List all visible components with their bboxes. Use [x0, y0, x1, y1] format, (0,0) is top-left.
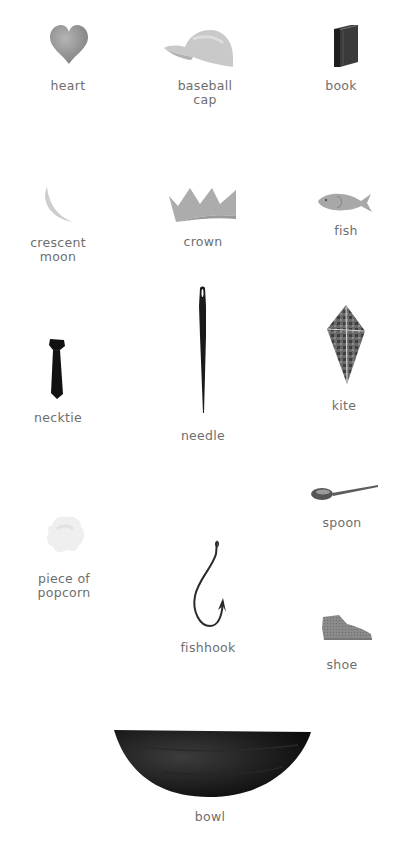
- item-label: crown: [163, 235, 243, 249]
- item-label: baseball cap: [165, 79, 245, 107]
- baseball-cap-icon: [163, 27, 235, 69]
- item-label: necktie: [18, 411, 98, 425]
- item-label: heart: [28, 79, 108, 93]
- item-label: bowl: [170, 810, 250, 824]
- necktie-icon: [48, 338, 66, 400]
- crescent-moon-icon: [43, 186, 75, 224]
- book-icon: [329, 24, 359, 68]
- heart-icon: [48, 24, 90, 66]
- fish-icon: [317, 191, 373, 215]
- popcorn-icon: [43, 515, 87, 555]
- item-label: spoon: [302, 516, 382, 530]
- item-label: crescent moon: [18, 236, 98, 264]
- kite-icon: [325, 304, 367, 386]
- shoe-icon: [321, 614, 373, 642]
- spoon-icon: [310, 484, 380, 504]
- item-label: needle: [163, 429, 243, 443]
- needle-icon: [196, 286, 210, 414]
- item-label: piece of popcorn: [24, 572, 104, 600]
- item-label: shoe: [302, 658, 382, 672]
- item-label: fishhook: [168, 641, 248, 655]
- crown-icon: [168, 186, 238, 222]
- item-label: kite: [304, 399, 384, 413]
- item-label: book: [301, 79, 381, 93]
- fishhook-icon: [190, 540, 230, 630]
- bowl-icon: [113, 727, 313, 799]
- item-label: fish: [306, 224, 386, 238]
